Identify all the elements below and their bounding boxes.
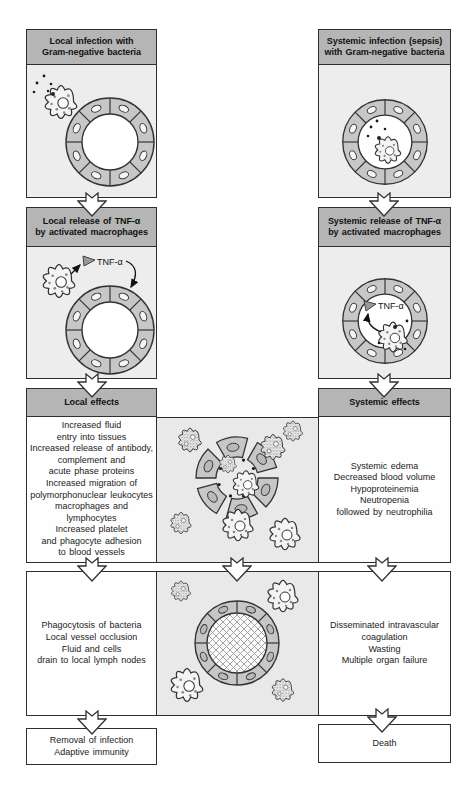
macrophage-icon bbox=[233, 471, 259, 498]
macrophage-icon bbox=[379, 322, 408, 352]
systemic-release-panel: TNF-α bbox=[318, 247, 451, 379]
down-arrow-icon bbox=[77, 557, 107, 582]
macrophage-icon bbox=[223, 509, 253, 540]
local-release-illustration: TNF-α bbox=[27, 247, 158, 379]
neutrophil-icon bbox=[220, 455, 237, 473]
occluded-vessel-illustration bbox=[157, 572, 315, 714]
systemic-infection-illustration bbox=[319, 65, 452, 198]
tnf-triangle-icon bbox=[83, 256, 95, 266]
tnf-label: TNF-α bbox=[378, 301, 404, 311]
systemic-infection-panel bbox=[318, 65, 451, 198]
local-infection-panel bbox=[26, 65, 157, 198]
tnf-effects-diagram: Local infection with Gram-negative bacte… bbox=[0, 0, 473, 785]
bacteria-dots bbox=[33, 75, 53, 94]
systemic-infection-header: Systemic infection (sepsis) with Gram-ne… bbox=[318, 29, 451, 65]
ingested-bacterium-dot bbox=[377, 136, 381, 140]
systemic-effects-text: Systemic edema Decreased blood volume Hy… bbox=[318, 417, 451, 563]
neutrophil-icon bbox=[283, 421, 302, 441]
macrophage-icon bbox=[171, 669, 203, 702]
systemic-outcome-text: Disseminated intravascular coagulation W… bbox=[318, 571, 451, 716]
tnf-label: TNF-α bbox=[97, 257, 123, 267]
macrophage-icon bbox=[270, 518, 300, 549]
local-outcome-text: Phagocytosis of bacteria Local vessel oc… bbox=[26, 571, 157, 716]
neutrophil-icon bbox=[171, 512, 191, 533]
local-infection-header: Local infection with Gram-negative bacte… bbox=[26, 29, 157, 65]
local-effects-text: Increased fluid entry into tissues Incre… bbox=[26, 417, 157, 563]
down-arrow-icon bbox=[367, 708, 397, 733]
down-arrow-icon bbox=[77, 710, 107, 735]
neutrophil-icon bbox=[272, 679, 294, 702]
local-release-panel: TNF-α bbox=[26, 247, 157, 379]
macrophage-icon bbox=[268, 580, 298, 611]
down-arrow-icon bbox=[369, 192, 399, 217]
down-arrow-icon bbox=[367, 557, 397, 582]
macrophage-icon bbox=[45, 86, 77, 119]
macrophage-icon bbox=[43, 265, 75, 298]
blood-vessel-icon bbox=[66, 98, 154, 186]
neutrophil-icon bbox=[179, 428, 202, 452]
blood-vessel-icon bbox=[66, 286, 154, 374]
ingested-bacterium-dot bbox=[51, 92, 55, 96]
tnf-to-vessel-arrow bbox=[126, 261, 135, 287]
neutrophil-icon bbox=[171, 581, 190, 601]
systemic-release-illustration: TNF-α bbox=[319, 247, 452, 379]
inflamed-vessel-illustration bbox=[157, 418, 315, 561]
down-arrow-icon bbox=[369, 373, 399, 398]
clotted-vessel-icon bbox=[195, 601, 279, 685]
macrophage-icon bbox=[375, 137, 401, 164]
down-arrow-icon bbox=[77, 192, 107, 217]
ingested-bacterium-dot bbox=[393, 325, 397, 329]
release-arrow bbox=[71, 265, 80, 274]
inflamed-vessel-panel bbox=[157, 417, 318, 563]
occluded-vessel-panel bbox=[157, 571, 318, 716]
neutrophil-icon bbox=[261, 434, 285, 459]
down-arrow-icon bbox=[77, 373, 107, 398]
blood-vessel-icon bbox=[343, 279, 427, 363]
down-arrow-icon bbox=[222, 557, 252, 582]
local-infection-illustration bbox=[27, 65, 158, 198]
